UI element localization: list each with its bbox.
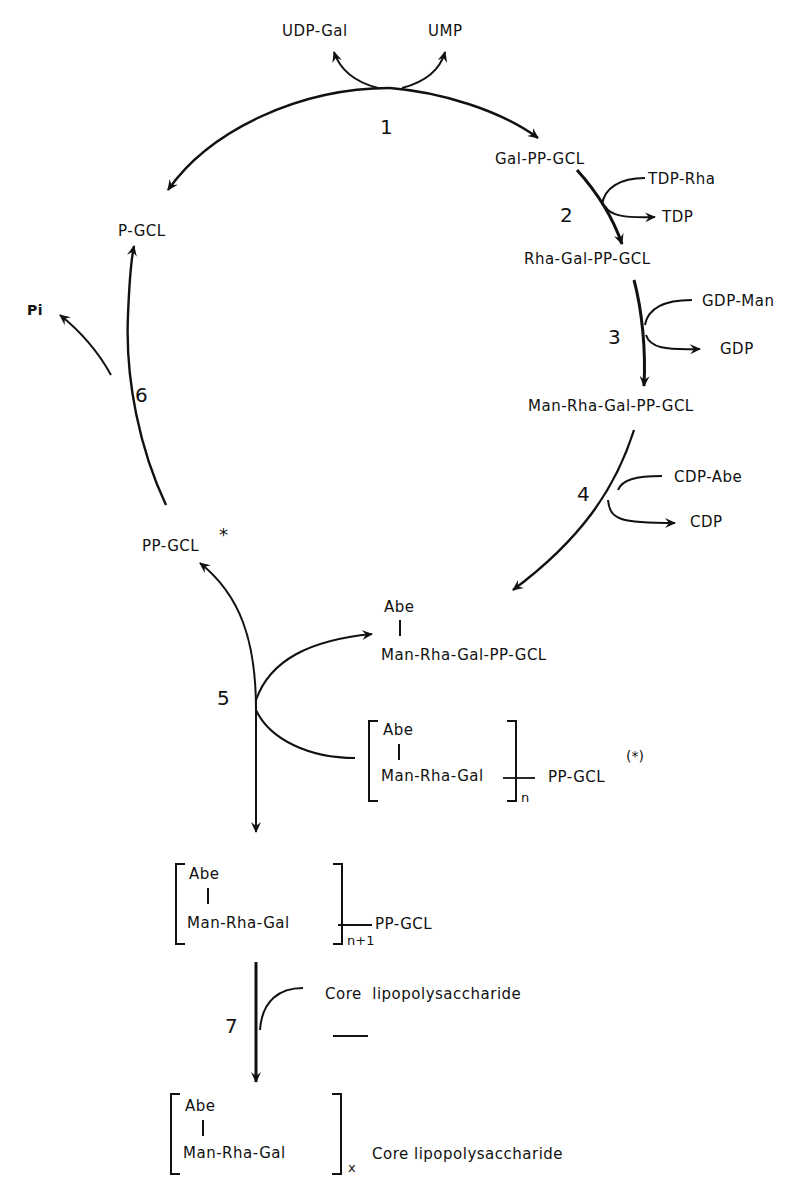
- step4-arrow: [513, 430, 634, 590]
- node-man-rha-gal-pp-gcl: Man-Rha-Gal-PP-GCL: [528, 397, 694, 415]
- final-abe: Abe: [185, 1097, 216, 1115]
- step-4-label: 4: [577, 482, 590, 506]
- abe-link: [399, 620, 401, 636]
- step5-polymer-in: [256, 710, 355, 758]
- bracket-left-n1: [175, 863, 185, 945]
- bracket-left-n: [368, 720, 378, 802]
- polymer-n-subscript: n: [521, 790, 529, 805]
- polymer-n1-abe: Abe: [189, 865, 220, 883]
- step-6-label: 6: [135, 383, 148, 407]
- polymer-n1-tail: PP-GCL: [375, 915, 432, 933]
- bracket-right-n1: [333, 863, 343, 945]
- polymer-n-mark: (*): [626, 748, 644, 764]
- core-lps-in: [260, 988, 303, 1030]
- step2-arrow: [577, 170, 622, 244]
- node-pp-gcl-star: PP-GCL: [142, 537, 199, 555]
- step-5-label: 5: [217, 686, 230, 710]
- node-gdp: GDP: [720, 340, 754, 358]
- step1-arc-right: [390, 88, 538, 138]
- step5-release: [256, 634, 372, 700]
- node-gdp-man: GDP-Man: [702, 292, 774, 310]
- tdp-rha-in: [602, 178, 645, 205]
- polymer-n1-subscript: n+1: [347, 933, 374, 948]
- node-tdp: TDP: [662, 208, 693, 226]
- node-gal-pp-gcl: Gal-PP-GCL: [495, 150, 585, 168]
- node-udp-gal: UDP-Gal: [282, 22, 348, 40]
- step-1-label: 1: [380, 115, 393, 139]
- final-tail: Core lipopolysaccharide: [372, 1145, 563, 1163]
- polymer-n1-chain: Man-Rha-Gal: [187, 914, 290, 932]
- node-core-lps: Core lipopolysaccharide: [325, 985, 521, 1003]
- pi-out: [60, 315, 111, 375]
- step1-arc-left: [168, 88, 390, 190]
- bracket-right-x: [332, 1093, 342, 1175]
- polymer-n-chain: Man-Rha-Gal: [381, 767, 484, 785]
- step-3-label: 3: [608, 325, 621, 349]
- tdp-out: [605, 206, 655, 217]
- node-p-gcl: P-GCL: [118, 222, 166, 240]
- node-rha-gal-pp-gcl: Rha-Gal-PP-GCL: [524, 250, 651, 268]
- step3-arrow: [634, 280, 645, 386]
- node-abe-top: Abe: [384, 598, 415, 616]
- bracket-right-n: [507, 720, 517, 802]
- step6-arc: [128, 246, 166, 505]
- cdp-out: [608, 500, 675, 523]
- udp-gal-in: [334, 52, 378, 88]
- node-ump: UMP: [428, 22, 462, 40]
- node-abe-man-rha-gal-pp-gcl: Man-Rha-Gal-PP-GCL: [381, 646, 547, 664]
- polymer-n1-link: [207, 888, 209, 904]
- final-chain: Man-Rha-Gal: [183, 1144, 286, 1162]
- polymer-n-link: [398, 744, 400, 760]
- final-subscript: x: [348, 1160, 356, 1175]
- bracket-left-x: [170, 1093, 180, 1175]
- step-7-label: 7: [225, 1014, 238, 1038]
- node-cdp: CDP: [690, 513, 723, 531]
- final-link: [202, 1120, 204, 1136]
- gdp-out: [646, 335, 700, 349]
- polymer-n-tail: PP-GCL: [548, 768, 605, 786]
- node-cdp-abe: CDP-Abe: [674, 468, 742, 486]
- node-pi: Pi: [27, 302, 43, 318]
- node-tdp-rha: TDP-Rha: [648, 170, 715, 188]
- pp-gcl-star-mark: *: [219, 524, 228, 545]
- ump-out: [402, 52, 445, 88]
- step-2-label: 2: [560, 203, 573, 227]
- gdp-man-in: [645, 300, 692, 325]
- cdp-abe-in: [618, 476, 662, 490]
- polymer-n-abe: Abe: [383, 721, 414, 739]
